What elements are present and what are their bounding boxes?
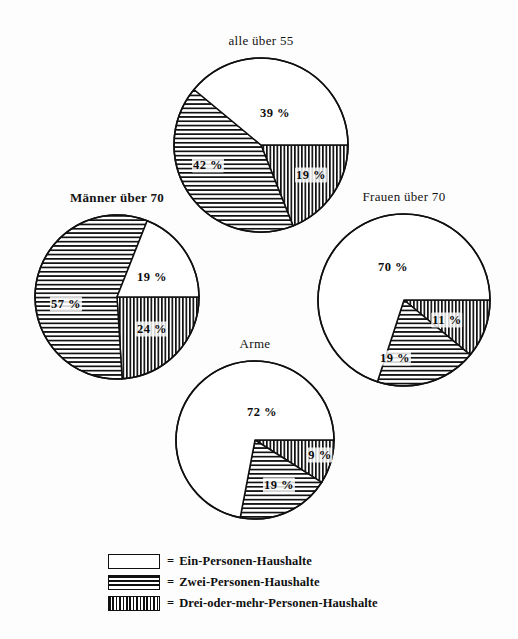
legend-equals-sign: =	[167, 596, 174, 611]
pie-slice-label: 11 %	[431, 313, 462, 328]
pie-slice-label: 24 %	[136, 322, 168, 337]
pie-slice-label: 42 %	[192, 158, 224, 173]
pie-chart-figure: alle über 55Männer über 70Frauen über 70…	[0, 0, 518, 639]
pie-slice-label: 57 %	[50, 297, 82, 312]
legend-item-1: =Zwei-Personen-Haushalte	[108, 573, 438, 592]
legend-label: Ein-Personen-Haushalte	[179, 554, 312, 569]
pie-slice-label: 19 %	[379, 351, 411, 366]
pie-slice-label: 19 %	[263, 478, 295, 493]
pie-title-1: Männer über 70	[70, 190, 164, 206]
legend-item-0: =Ein-Personen-Haushalte	[108, 552, 438, 571]
pie-title-0: alle über 55	[229, 33, 294, 49]
pie-title-2: Frauen über 70	[363, 189, 446, 205]
pie-slice-label: 19 %	[295, 168, 327, 183]
pie-title-3: Arme	[240, 336, 271, 352]
pie-slice-label: 9 %	[307, 448, 332, 463]
legend-item-2: =Drei-oder-mehr-Personen-Haushalte	[108, 594, 438, 613]
legend-equals-sign: =	[167, 554, 174, 569]
pie-slice	[117, 297, 199, 379]
pie-slice-label: 19 %	[137, 270, 167, 285]
pie-slice-label: 72 %	[247, 405, 277, 420]
legend-label: Drei-oder-mehr-Personen-Haushalte	[179, 596, 378, 611]
legend-equals-sign: =	[167, 575, 174, 590]
legend-swatch-horizontal-lines-icon	[108, 575, 160, 590]
pie-slice-label: 39 %	[260, 106, 290, 121]
legend: =Ein-Personen-Haushalte=Zwei-Personen-Ha…	[108, 552, 438, 615]
pie-slice-label: 70 %	[378, 260, 408, 275]
legend-label: Zwei-Personen-Haushalte	[179, 575, 319, 590]
legend-swatch-blank-icon	[108, 554, 160, 569]
legend-swatch-vertical-lines-icon	[108, 596, 160, 611]
